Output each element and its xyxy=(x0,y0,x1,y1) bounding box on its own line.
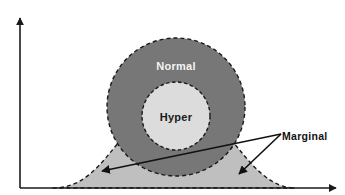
normal-region-label: Normal xyxy=(156,60,196,72)
marginal-leader-right-arrow xyxy=(239,134,281,174)
hyper-region-label: Hyper xyxy=(160,111,193,123)
marginal-callout-label: Marginal xyxy=(282,130,328,142)
figure-container: Normal Hyper Marginal xyxy=(0,0,345,195)
concept-diagram: Normal Hyper Marginal xyxy=(0,0,345,195)
